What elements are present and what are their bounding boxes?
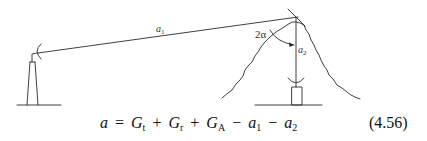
mountain-outline	[222, 22, 360, 99]
angle-arc	[270, 30, 294, 45]
equals-sign: =	[112, 114, 127, 131]
op-minus-2: −	[265, 114, 280, 131]
reflector-plane-line	[288, 9, 305, 26]
transmitter-antenna-icon	[37, 44, 41, 59]
path-loss-equation: a = Gt + Gr + GA − a1 − a2	[100, 115, 297, 133]
label-angle-2alpha: 2α	[255, 29, 266, 40]
receiver-tower	[255, 78, 322, 105]
op-minus-1: −	[229, 114, 244, 131]
op-plus-1: +	[149, 114, 164, 131]
term-gt: Gt	[131, 114, 145, 131]
op-plus-2: +	[187, 114, 202, 131]
label-a2: a2	[298, 45, 307, 57]
equation-number: (4.56)	[369, 115, 408, 131]
term-a1: a1	[248, 114, 261, 131]
label-a1: a1	[156, 24, 165, 36]
term-a2: a2	[284, 114, 297, 131]
equation-lhs: a	[100, 114, 108, 131]
term-gr: Gr	[168, 114, 183, 131]
term-ga: GA	[206, 114, 225, 131]
arc-arrowhead-icon	[289, 43, 294, 48]
